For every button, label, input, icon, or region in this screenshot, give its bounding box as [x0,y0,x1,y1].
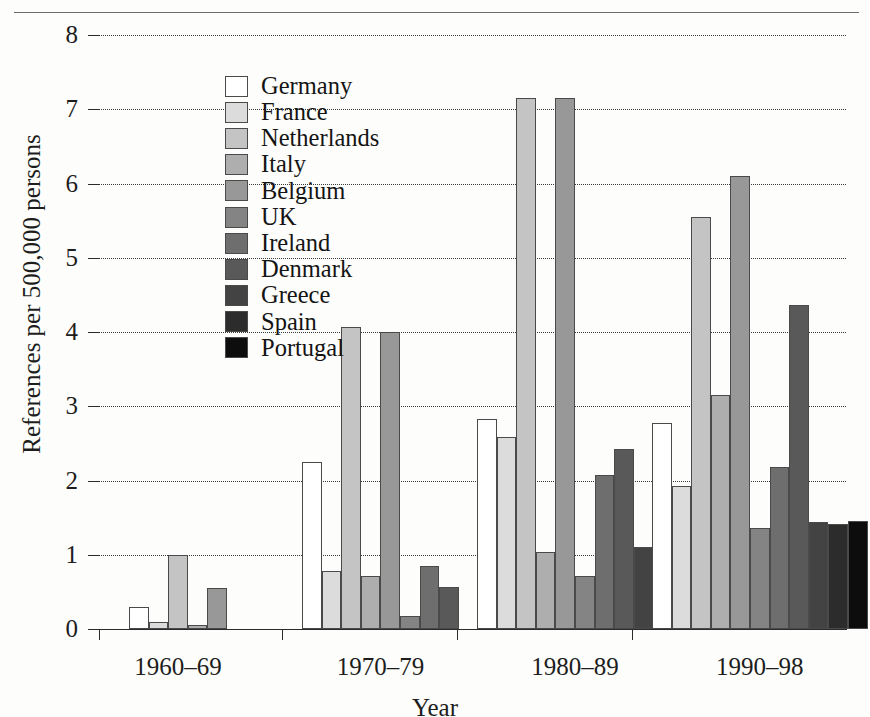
y-tick-label: 2 [52,468,78,493]
legend-item-label: Portugal [261,336,344,361]
legend-item[interactable]: Italy [225,152,465,178]
legend-swatch-icon [225,102,248,123]
legend-swatch-icon [225,154,248,175]
y-tick-label: 3 [52,393,78,418]
legend-item[interactable]: Ireland [225,230,465,256]
legend-swatch-icon [225,128,248,149]
bar [168,555,188,629]
legend-item[interactable]: UK [225,204,465,230]
y-axis-tick [88,481,99,482]
legend-item[interactable]: Belgium [225,178,465,204]
legend-item-label: Belgium [261,179,345,204]
x-axis-title: Year [0,694,870,717]
bar [730,176,750,629]
y-tick-label: 7 [52,96,78,121]
legend-swatch-icon [225,76,248,97]
y-tick-label: 1 [52,542,78,567]
legend-item-label: Spain [261,310,317,335]
gridline [99,35,846,36]
y-tick-label: 0 [52,616,78,641]
bar [439,587,459,629]
x-axis-tick [457,629,458,640]
bar [789,305,809,629]
bar [750,528,770,629]
bar [420,566,440,629]
bar [302,462,322,629]
bar [516,98,536,629]
y-axis-tick [88,35,99,36]
legend-item-label: Ireland [261,231,330,256]
x-tick-label: 1980–89 [531,653,619,681]
chart-legend: GermanyFranceNetherlandsItalyBelgiumUKIr… [225,73,465,361]
y-axis-tick [88,332,99,333]
y-tick-label: 5 [52,245,78,270]
bar [634,547,654,629]
x-axis-tick [632,629,633,640]
figure-page: GermanyFranceNetherlandsItalyBelgiumUKIr… [0,0,870,717]
bar [188,625,208,629]
plot-area: GermanyFranceNetherlandsItalyBelgiumUKIr… [99,35,846,629]
legend-swatch-icon [225,311,248,332]
bar [711,395,731,629]
legend-item-label: Germany [261,74,352,99]
bar [809,522,829,629]
legend-item-label: UK [261,205,296,230]
legend-swatch-icon [225,207,248,228]
legend-item[interactable]: Denmark [225,256,465,282]
bar [614,449,634,629]
bar [477,419,497,629]
y-axis-tick [88,109,99,110]
y-tick-label: 6 [52,171,78,196]
y-tick-label: 4 [52,319,78,344]
x-tick-label: 1990–98 [716,653,804,681]
bar [536,552,556,629]
legend-swatch-icon [225,337,248,358]
y-tick-label: 8 [52,22,78,47]
bar [672,486,692,629]
y-axis-tick [88,184,99,185]
bar [149,622,169,629]
gridline [99,109,846,110]
bar [770,467,790,629]
legend-swatch-icon [225,233,248,254]
legend-item[interactable]: Germany [225,73,465,99]
x-tick-label: 1960–69 [134,653,222,681]
bar [400,616,420,629]
bar [848,521,868,629]
legend-item[interactable]: Greece [225,283,465,309]
y-axis-tick [88,406,99,407]
legend-item-label: Netherlands [261,126,379,151]
bar [341,327,361,629]
legend-item-label: Greece [261,283,330,308]
legend-item[interactable]: Netherlands [225,125,465,151]
bar [691,217,711,629]
bar [828,524,848,629]
bar [497,437,517,629]
bar [380,332,400,629]
y-axis-title: References per 500,000 persons [18,0,46,594]
y-axis-tick [88,555,99,556]
legend-swatch-icon [225,285,248,306]
bar [595,475,615,629]
bar [361,576,381,629]
legend-item-label: Italy [261,152,306,177]
bar [575,576,595,629]
legend-item-label: Denmark [261,257,352,282]
x-axis-tick [99,629,100,640]
bar [129,607,149,629]
x-axis-tick [282,629,283,640]
y-axis-tick [88,629,99,630]
legend-swatch-icon [225,180,248,201]
x-tick-label: 1970–79 [337,653,425,681]
bar [322,571,342,629]
bar [207,588,227,629]
legend-swatch-icon [225,259,248,280]
y-axis-tick [88,258,99,259]
legend-item[interactable]: Portugal [225,335,465,361]
legend-item-label: France [261,100,328,125]
header-rule [14,12,859,13]
bar [555,98,575,629]
legend-item[interactable]: France [225,99,465,125]
legend-item[interactable]: Spain [225,309,465,335]
x-axis-line [99,629,847,630]
